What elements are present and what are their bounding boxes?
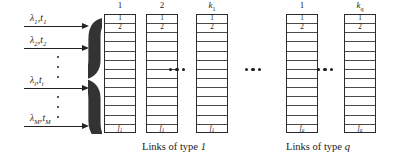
column-cell <box>105 106 135 115</box>
column-cell: 2 <box>197 24 227 33</box>
link-column-tq-c1[interactable]: 1 2 fq <box>286 14 318 133</box>
column-cell-bottom: f1 <box>147 125 177 134</box>
caption-links-of-type-1: Links of type 1 <box>142 141 206 152</box>
column-cell <box>147 88 177 97</box>
column-cell <box>147 42 177 51</box>
arrival-arrow-2: λ2,t2 <box>24 48 90 49</box>
link-column-t1-c1[interactable]: 1 2 f1 <box>104 14 136 133</box>
ellipsis-type-q-inner <box>317 68 333 71</box>
caption-links-of-type-q: Links of type q <box>286 141 350 152</box>
column-cell <box>287 106 317 115</box>
arrival-label-1: λ1,t1 <box>30 13 47 25</box>
column-cell <box>105 33 135 42</box>
column-cell <box>197 97 227 106</box>
ellipsis-type-1-inner <box>169 68 185 71</box>
column-header-tq-c1: 1 <box>286 1 318 10</box>
column-cell <box>197 106 227 115</box>
column-cell <box>147 33 177 42</box>
column-cell <box>105 97 135 106</box>
arrival-label-M: λM,tM <box>30 113 51 125</box>
figure-canvas: λ1,t1 λ2,t2 λi,ti λM,tM { 1 <box>0 0 393 162</box>
column-cell <box>147 52 177 61</box>
column-cell: 2 <box>105 24 135 33</box>
grouping-brace: { <box>88 8 102 134</box>
column-cell <box>345 33 375 42</box>
column-cell <box>197 52 227 61</box>
column-cell <box>345 52 375 61</box>
column-cell <box>345 42 375 51</box>
column-cell <box>147 106 177 115</box>
column-cell <box>105 88 135 97</box>
column-cell <box>287 88 317 97</box>
column-cell <box>197 61 227 70</box>
column-cell <box>287 97 317 106</box>
link-column-t1-c2[interactable]: 1 2 f1 <box>146 14 178 133</box>
column-cell <box>345 61 375 70</box>
arrival-label-i: λi,ti <box>30 75 44 87</box>
vertical-ellipsis-upper <box>56 56 59 78</box>
column-cell <box>147 97 177 106</box>
column-cell <box>105 79 135 88</box>
column-cell-bottom: f1 <box>197 125 227 134</box>
column-cell <box>287 70 317 79</box>
column-cell <box>345 70 375 79</box>
arrow-shaft <box>24 48 84 49</box>
column-header-tq-ck: kq <box>344 1 376 12</box>
column-cell-bottom: fq <box>345 125 375 134</box>
column-cell-bottom: f1 <box>105 125 135 134</box>
link-column-tq-ck[interactable]: 1 2 fq <box>344 14 376 133</box>
arrow-shaft <box>24 26 84 27</box>
arrival-arrow-M: λM,tM <box>24 126 90 127</box>
column-cell <box>197 88 227 97</box>
column-header-t1-c1: 1 <box>104 1 136 10</box>
column-cell <box>105 70 135 79</box>
column-cell <box>345 97 375 106</box>
column-cell <box>287 79 317 88</box>
column-cell <box>105 42 135 51</box>
ellipsis-between-groups <box>245 68 261 71</box>
column-cell <box>345 79 375 88</box>
column-cell <box>287 52 317 61</box>
column-cell: 2 <box>287 24 317 33</box>
column-cell <box>147 79 177 88</box>
column-cell <box>105 61 135 70</box>
column-cell <box>345 88 375 97</box>
arrow-shaft <box>24 88 84 89</box>
column-cell <box>287 61 317 70</box>
column-cell <box>147 70 177 79</box>
column-cell-bottom: fq <box>287 125 317 134</box>
column-cell <box>197 70 227 79</box>
arrival-arrow-1: λ1,t1 <box>24 26 90 27</box>
column-cell <box>345 106 375 115</box>
column-cell <box>197 79 227 88</box>
vertical-ellipsis-lower <box>56 96 59 118</box>
column-cell: 2 <box>345 24 375 33</box>
link-column-t1-ck[interactable]: 1 2 f1 <box>196 14 228 133</box>
column-cell <box>105 52 135 61</box>
arrival-arrow-i: λi,ti <box>24 88 90 89</box>
column-header-t1-c2: 2 <box>146 1 178 10</box>
column-header-t1-ck: k1 <box>196 1 228 12</box>
column-cell <box>287 42 317 51</box>
arrow-shaft <box>24 126 84 127</box>
column-cell <box>287 33 317 42</box>
column-cell <box>197 33 227 42</box>
column-cell <box>197 42 227 51</box>
arrival-label-2: λ2,t2 <box>30 35 47 47</box>
column-cell: 2 <box>147 24 177 33</box>
